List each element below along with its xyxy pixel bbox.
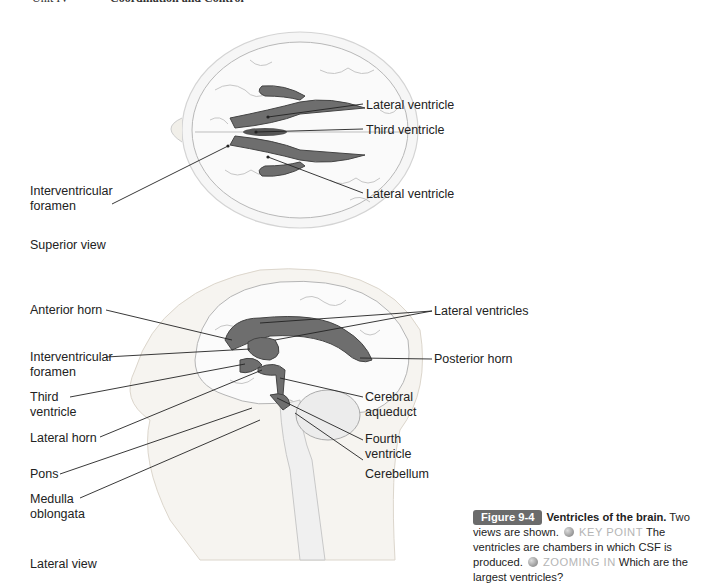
- key-point-label: KEY POINT: [579, 526, 643, 538]
- label-lateral-ventricles: Lateral ventricles: [434, 304, 529, 319]
- label-pons: Pons: [30, 467, 59, 482]
- figure-number-badge: Figure 9-4: [473, 510, 542, 525]
- label-fourth-ventricle: Fourth ventricle: [365, 432, 412, 462]
- view-label-lateral: Lateral view: [30, 557, 97, 571]
- label-third-ventricle: Third ventricle: [366, 123, 445, 138]
- caption-title: Ventricles of the brain.: [546, 511, 666, 523]
- figure-caption: Figure 9-4Ventricles of the brain. Two v…: [473, 510, 713, 585]
- magnifier-icon: [564, 527, 574, 537]
- label-lateral-ventricle-top: Lateral ventricle: [366, 98, 454, 113]
- label-anterior-horn: Anterior horn: [30, 303, 102, 318]
- label-interventricular-foramen-superior: Interventricular foramen: [30, 184, 113, 214]
- label-lateral-ventricle-bottom: Lateral ventricle: [366, 187, 454, 202]
- label-lateral-horn: Lateral horn: [30, 431, 97, 446]
- label-medulla-oblongata: Medulla oblongata: [30, 492, 85, 522]
- label-third-ventricle-lateral: Third ventricle: [30, 390, 77, 420]
- label-interventricular-foramen-lateral: Interventricular foramen: [30, 350, 113, 380]
- label-posterior-horn: Posterior horn: [434, 352, 513, 367]
- zooming-in-label: ZOOMING IN: [543, 556, 616, 568]
- label-cerebral-aqueduct: Cerebral aqueduct: [365, 390, 416, 420]
- view-label-superior: Superior view: [30, 238, 106, 252]
- magnifier-icon: [528, 557, 538, 567]
- label-cerebellum: Cerebellum: [365, 467, 429, 482]
